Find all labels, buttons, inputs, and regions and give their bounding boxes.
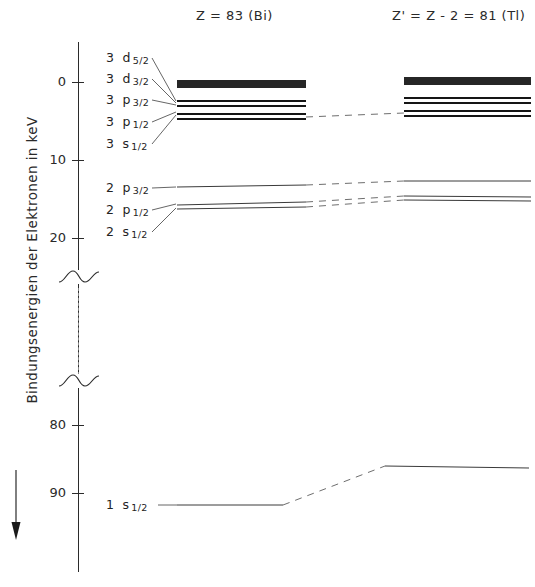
y-axis-tick-label-90: 90 (49, 485, 66, 500)
y-axis-tick-label-80: 80 (49, 417, 66, 432)
connector-2s1_2 (306, 200, 404, 207)
down-arrow-icon (10, 470, 22, 540)
y-axis-tick-20 (72, 238, 84, 239)
level-line-tl-3p1_2 (404, 102, 531, 104)
level-label-3p3_2: 3 p3/2 (106, 92, 149, 107)
level-line-bi-3p3_2 (177, 100, 306, 102)
level-line-tl-1s (385, 466, 529, 468)
diagram-overlay (0, 0, 535, 587)
level-line-tl-3d (404, 77, 531, 85)
connector-1s1_2 (283, 466, 385, 505)
leader-lines-n2 (152, 187, 176, 232)
y-axis-tick-0 (72, 82, 84, 83)
y-axis-tick-label-20: 20 (49, 230, 66, 245)
y-axis-tick-10 (72, 160, 84, 161)
level-line-bi-3s1_2-b (177, 118, 306, 120)
y-axis-tick-80 (72, 425, 84, 426)
connector-n3 (306, 113, 404, 117)
column-header-bi: Z = 83 (Bi) (196, 8, 273, 23)
level-line-tl-3p3_2 (404, 97, 531, 99)
axis-break-lower-icon (58, 372, 100, 390)
level-label-2p1_2: 2 p1/2 (106, 202, 149, 217)
level-label-3d3_2: 3 d3/2 (106, 71, 149, 86)
level-line-tl-3s1_2 (404, 110, 531, 112)
level-line-tl-3s1_2-b (404, 115, 531, 117)
connector-2p3_2 (306, 181, 404, 185)
y-axis-dashed-segment (78, 288, 79, 380)
column-header-tl: Z' = Z - 2 = 81 (Tl) (392, 8, 525, 23)
level-label-3s1_2: 3 s1/2 (106, 136, 148, 151)
level-line-bi-3s1_2 (177, 113, 306, 115)
level-lines-tl-n2 (404, 181, 531, 201)
level-line-bi-3p1_2 (177, 105, 306, 107)
y-axis-tick-label-0: 0 (58, 74, 66, 89)
y-axis-tick-label-10: 10 (49, 152, 66, 167)
leader-lines-n3 (152, 58, 176, 144)
binding-energy-level-diagram: Z = 83 (Bi) Z' = Z - 2 = 81 (Tl) 0 10 20… (0, 0, 535, 587)
level-label-3p1_2: 3 p1/2 (106, 114, 149, 129)
y-axis-title: Bindungsenergien der Elektronen in keV (24, 100, 40, 420)
level-label-2s1_2: 2 s1/2 (106, 224, 148, 239)
y-axis-tick-90 (72, 493, 84, 494)
connector-2p1_2 (306, 196, 404, 202)
level-lines-bi-n2 (177, 185, 306, 209)
level-label-1s1_2: 1 s1/2 (106, 497, 148, 512)
level-line-bi-3d (177, 80, 306, 88)
level-label-2p3_2: 2 p3/2 (106, 180, 149, 195)
axis-break-upper-icon (58, 268, 100, 286)
level-label-3d5_2: 3 d5/2 (106, 50, 149, 65)
